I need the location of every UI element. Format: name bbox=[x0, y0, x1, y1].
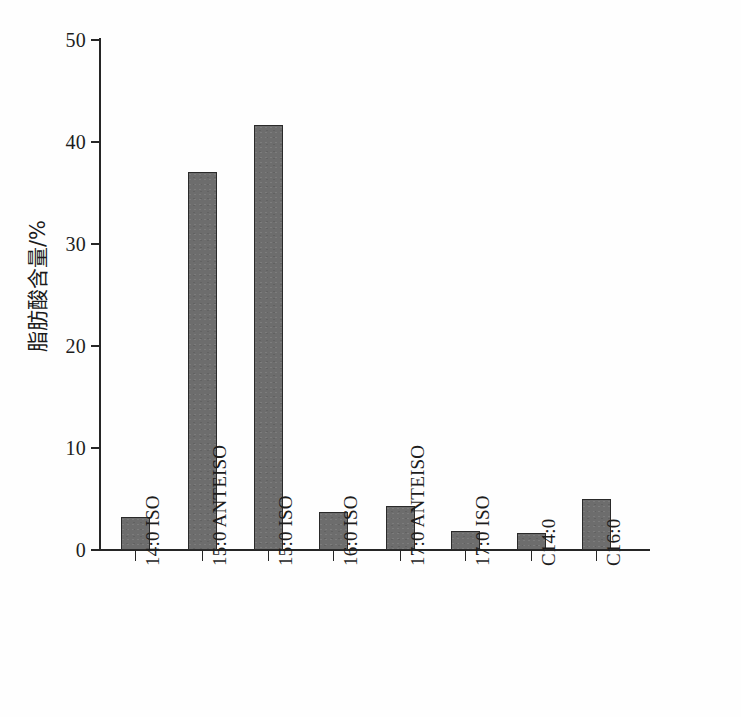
y-tick-label: 40 bbox=[40, 132, 86, 152]
x-tick-label: 16:0 ISO bbox=[341, 495, 360, 566]
y-tick-label: 0 bbox=[40, 540, 86, 560]
y-axis-tick bbox=[91, 243, 100, 245]
x-axis-tick bbox=[268, 550, 270, 561]
x-axis-tick bbox=[465, 550, 467, 561]
y-tick-label: 50 bbox=[40, 30, 86, 50]
x-axis-tick bbox=[135, 550, 137, 561]
y-axis-tick bbox=[91, 447, 100, 449]
x-axis-tick bbox=[202, 550, 204, 561]
x-axis-tick bbox=[400, 550, 402, 561]
y-axis-tick bbox=[91, 141, 100, 143]
y-tick-label: 30 bbox=[40, 234, 86, 254]
x-axis-tick bbox=[333, 550, 335, 561]
bar bbox=[254, 125, 283, 550]
y-axis-tick bbox=[91, 39, 100, 41]
y-axis-tick bbox=[91, 549, 100, 551]
x-tick-label: 17:0 ANTEISO bbox=[408, 445, 427, 566]
y-axis-tick-labels: 50403020100 bbox=[0, 0, 86, 717]
x-axis-line bbox=[99, 549, 650, 551]
x-axis-tick bbox=[596, 550, 598, 561]
x-axis-tick bbox=[531, 550, 533, 561]
x-tick-label: C14:0 bbox=[539, 519, 558, 566]
x-tick-label: C16:0 bbox=[604, 519, 623, 566]
y-axis-tick bbox=[91, 345, 100, 347]
x-tick-label: 14:0 ISO bbox=[143, 495, 162, 566]
y-axis-line bbox=[99, 38, 101, 551]
y-tick-label: 20 bbox=[40, 336, 86, 356]
y-tick-label: 10 bbox=[40, 438, 86, 458]
x-tick-label: 17:0 ISO bbox=[473, 495, 492, 566]
chart-page: 脂肪酸含量/% 50403020100 14:0 ISO15:0 ANTEISO… bbox=[0, 0, 741, 717]
x-tick-label: 15:0 ANTEISO bbox=[210, 445, 229, 566]
x-tick-label: 15:0 ISO bbox=[276, 495, 295, 566]
